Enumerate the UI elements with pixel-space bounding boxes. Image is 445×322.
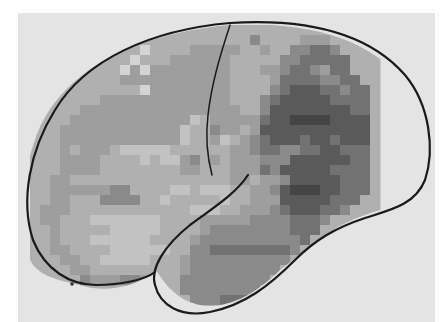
brain-outline [0,0,445,322]
central-sulcus [207,25,230,175]
hemisphere-contour [27,22,430,313]
sylvian-fissure-lower [96,272,155,285]
marker-dot [70,282,74,286]
